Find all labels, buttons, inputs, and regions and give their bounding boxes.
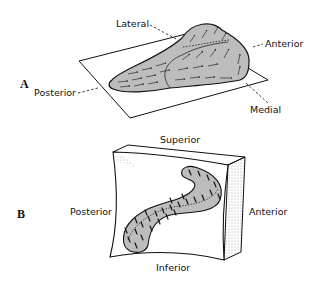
label-anterior-b: Anterior bbox=[249, 206, 287, 217]
panel-b-letter: B bbox=[17, 207, 25, 222]
label-medial: Medial bbox=[250, 104, 281, 115]
label-lateral: Lateral bbox=[116, 18, 149, 29]
label-posterior-a: Posterior bbox=[34, 87, 76, 98]
label-anterior-a: Anterior bbox=[265, 38, 303, 49]
label-inferior: Inferior bbox=[156, 262, 190, 273]
label-posterior-b: Posterior bbox=[70, 206, 112, 217]
label-superior: Superior bbox=[160, 134, 200, 145]
panel-a-letter: A bbox=[20, 77, 29, 92]
